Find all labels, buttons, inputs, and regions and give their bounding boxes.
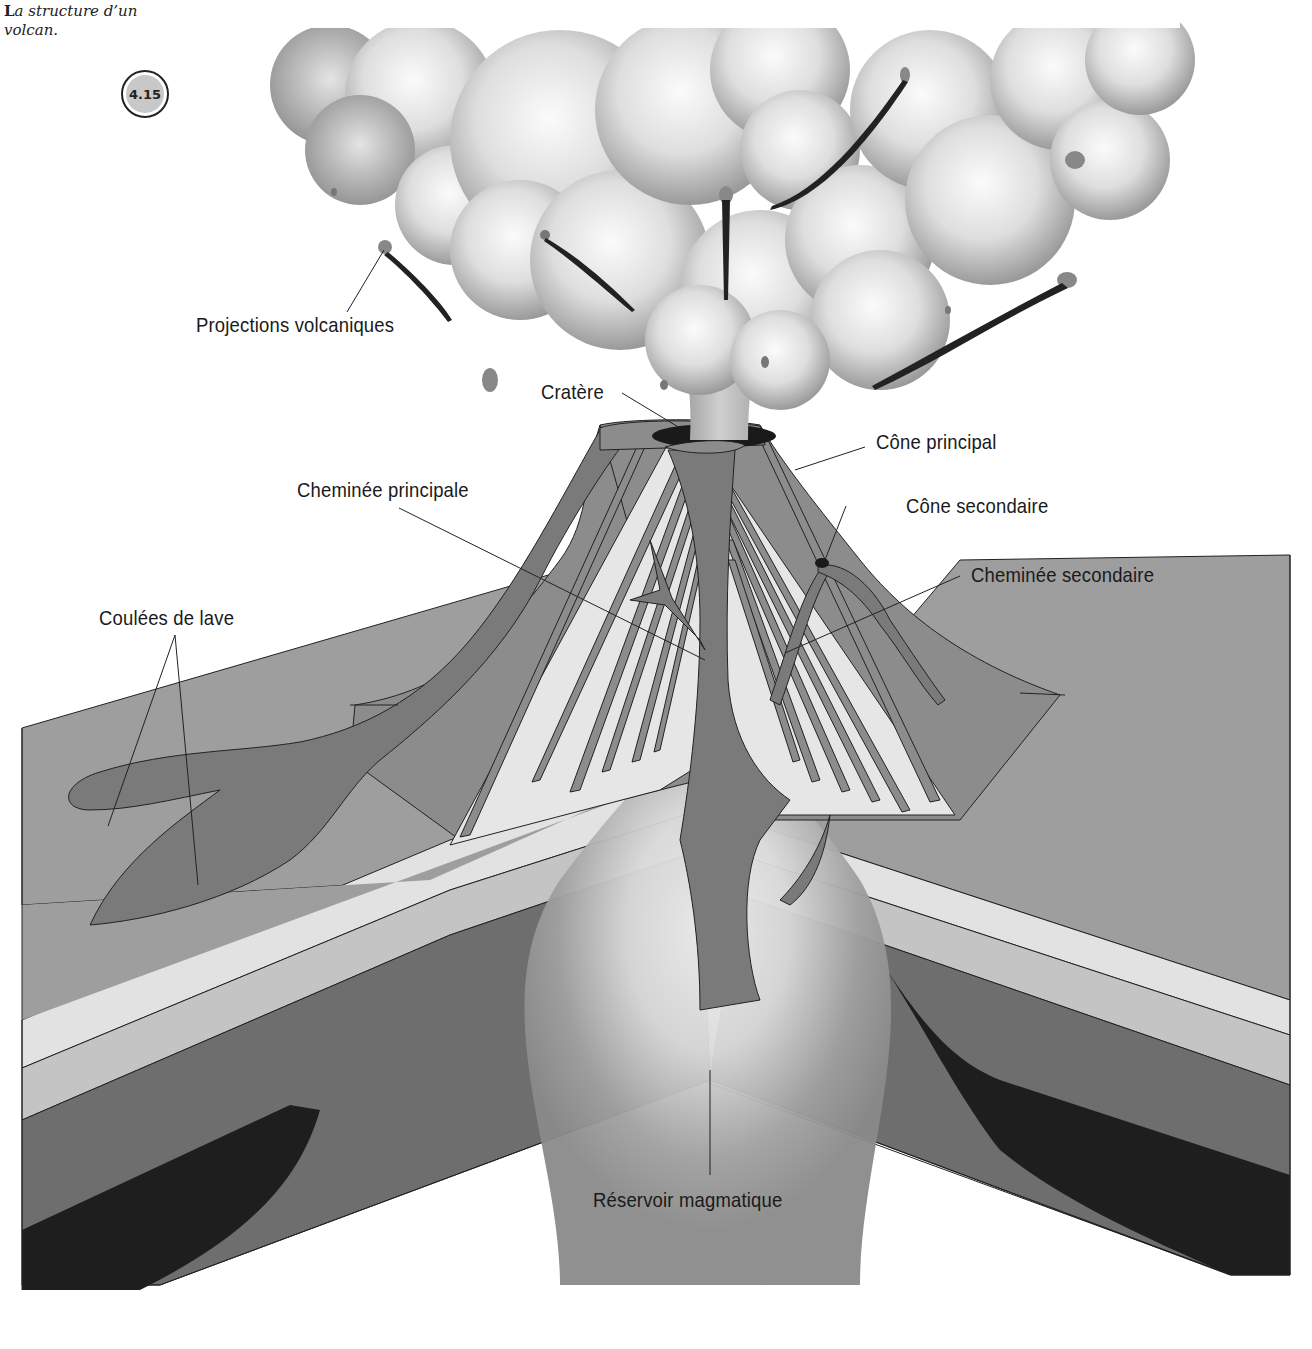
label-cone-principal: Cône principal [876, 430, 997, 454]
label-coulees-de-lave: Coulées de lave [99, 606, 234, 630]
figure-number-badge: 4.15 [121, 70, 169, 118]
label-cheminee-secondaire: Cheminée secondaire [971, 563, 1154, 587]
figure-caption: La structure d’un volcan. [4, 2, 164, 40]
label-reservoir-magmatique: Réservoir magmatique [593, 1188, 782, 1212]
volcano-illustration [0, 0, 1312, 1349]
secondary-cone-vent [815, 558, 829, 568]
volcano-diagram: La structure d’un volcan. 4.15 Projectio… [0, 0, 1312, 1349]
label-projections-volcaniques: Projections volcaniques [196, 313, 394, 337]
caption-text: a structure d’un volcan. [4, 2, 137, 39]
label-cone-secondaire: Cône secondaire [906, 494, 1048, 518]
figure-number: 4.15 [126, 75, 164, 113]
ash-cloud [180, 0, 1195, 410]
label-cheminee-principale: Cheminée principale [297, 478, 469, 502]
caption-dropcap: L [4, 2, 15, 20]
label-cratere: Cratère [541, 380, 604, 404]
